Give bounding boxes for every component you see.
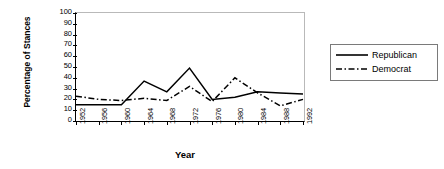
legend-item-democrat: Democrat — [335, 62, 433, 76]
solid-line-key — [335, 49, 369, 61]
chart-legend: Republican Democrat — [330, 44, 438, 81]
x-tick-label: 1964 — [147, 108, 155, 124]
x-axis-title: Year — [130, 149, 240, 160]
x-axis-tick-labels: 1952195619601964196819721976198019841988… — [0, 0, 444, 169]
legend-item-republican: Republican — [335, 48, 433, 62]
x-tick-label: 1956 — [101, 108, 109, 124]
chart-figure: Percentage of Stances 010203040506070809… — [0, 0, 444, 169]
legend-label-republican: Republican — [372, 50, 417, 60]
x-tick-label: 1968 — [169, 108, 177, 124]
x-tick-label: 1992 — [306, 108, 314, 124]
x-tick-label: 1952 — [79, 108, 87, 124]
x-tick-label: 1976 — [215, 108, 223, 124]
x-tick-label: 1984 — [260, 108, 268, 124]
legend-label-democrat: Democrat — [372, 64, 411, 74]
x-tick-label: 1980 — [237, 108, 245, 124]
x-tick-label: 1972 — [192, 108, 200, 124]
dash-dot-line-key — [335, 63, 369, 75]
x-tick-label: 1988 — [283, 108, 291, 124]
x-tick-label: 1960 — [124, 108, 132, 124]
